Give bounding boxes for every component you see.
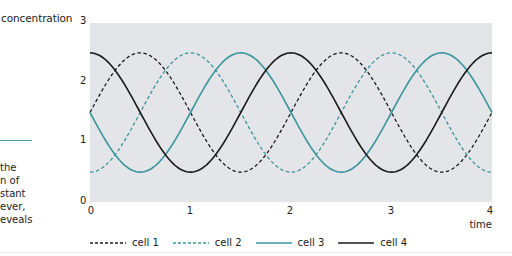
bottom-divider bbox=[0, 252, 512, 253]
x-tick-0: 0 bbox=[88, 205, 94, 216]
dashed-teal-line-icon bbox=[173, 240, 209, 246]
legend-label: cell 4 bbox=[380, 237, 407, 248]
legend-item-cell-1: cell 1 bbox=[90, 237, 159, 248]
legend-item-cell-3: cell 3 bbox=[256, 237, 325, 248]
dashed-black-line-icon bbox=[90, 240, 126, 246]
legend: cell 1 cell 2 cell 3 cell 4 bbox=[90, 237, 421, 248]
y-tick-1: 1 bbox=[80, 134, 86, 145]
line-chart bbox=[0, 0, 512, 256]
legend-label: cell 2 bbox=[215, 237, 242, 248]
y-tick-0: 0 bbox=[80, 195, 86, 206]
x-tick-3: 3 bbox=[388, 205, 394, 216]
legend-item-cell-4: cell 4 bbox=[338, 237, 407, 248]
solid-teal-line-icon bbox=[256, 240, 292, 246]
x-tick-4: 4 bbox=[487, 205, 493, 216]
solid-black-line-icon bbox=[338, 240, 374, 246]
legend-item-cell-2: cell 2 bbox=[173, 237, 242, 248]
y-tick-2: 2 bbox=[80, 75, 86, 86]
legend-label: cell 1 bbox=[132, 237, 159, 248]
x-axis-label: time bbox=[469, 219, 492, 230]
x-tick-1: 1 bbox=[187, 205, 193, 216]
y-tick-3: 3 bbox=[80, 15, 86, 26]
legend-label: cell 3 bbox=[298, 237, 325, 248]
x-tick-2: 2 bbox=[287, 205, 293, 216]
